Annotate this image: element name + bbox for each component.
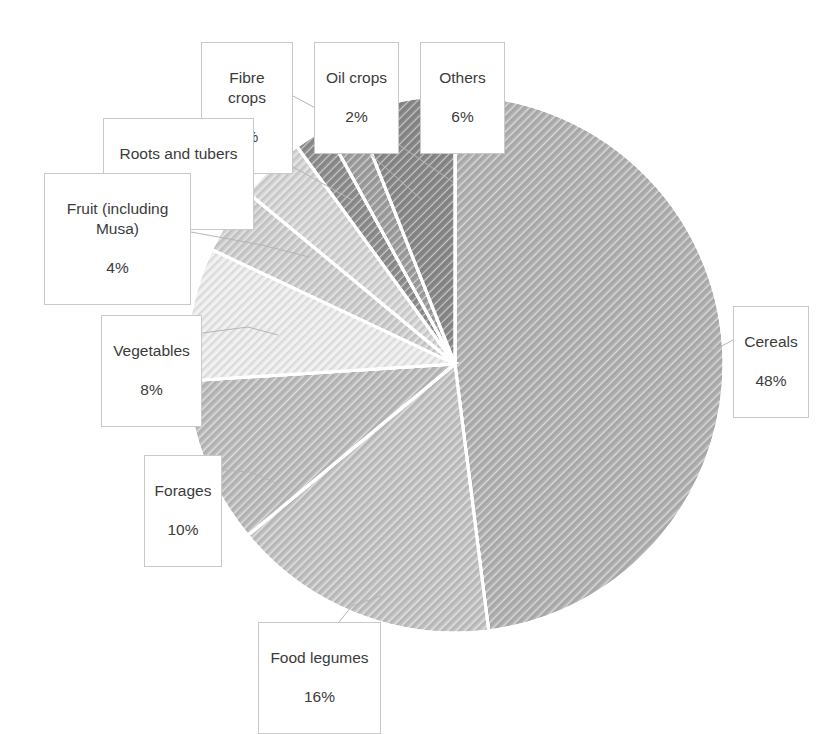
callout-label: Forages xyxy=(153,481,213,501)
callout-label: Fibre crops xyxy=(210,68,284,108)
callout-label: Others xyxy=(429,68,496,88)
callout-fruit[interactable]: Fruit (including Musa) 4% xyxy=(44,173,191,305)
callout-percent: 2% xyxy=(323,107,390,127)
callout-percent: 8% xyxy=(110,380,193,400)
pie-slices xyxy=(186,95,724,633)
callout-oil-crops[interactable]: Oil crops 2% xyxy=(314,42,399,154)
callout-label: Vegetables xyxy=(110,341,193,361)
callout-percent: 16% xyxy=(267,687,372,707)
callout-percent: 48% xyxy=(742,371,800,391)
callout-label: Roots and tubers xyxy=(112,144,245,164)
callout-label: Fruit (including Musa) xyxy=(53,199,182,239)
callout-percent: 10% xyxy=(153,520,213,540)
callout-percent: 6% xyxy=(429,107,496,127)
callout-cereals[interactable]: Cereals 48% xyxy=(733,306,809,418)
callout-label: Oil crops xyxy=(323,68,390,88)
callout-label: Food legumes xyxy=(267,648,372,668)
callout-percent: 4% xyxy=(53,258,182,278)
callout-vegetables[interactable]: Vegetables 8% xyxy=(101,315,202,427)
callout-forages[interactable]: Forages 10% xyxy=(144,455,222,567)
callout-others[interactable]: Others 6% xyxy=(420,42,505,154)
callout-label: Cereals xyxy=(742,332,800,352)
pie-slice-texture xyxy=(455,95,724,631)
callout-food-legumes[interactable]: Food legumes 16% xyxy=(258,622,381,734)
